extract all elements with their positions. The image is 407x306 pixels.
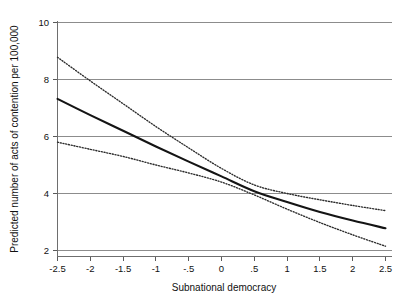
y-tick-label-10: 10: [38, 17, 49, 28]
x-tick-label-1: 1: [284, 263, 289, 274]
y-tick-label-6: 6: [44, 131, 49, 142]
series-upper-ci-line: [58, 57, 386, 210]
x-tick-label-1.5: 1.5: [313, 263, 326, 274]
series-layer: [58, 57, 386, 246]
y-axis: 2 4 6 8 10 Predicted number of acts of c…: [9, 17, 58, 256]
y-axis-title: Predicted number of acts of contention p…: [9, 25, 20, 253]
x-tick-label-2.5: 2.5: [379, 263, 392, 274]
y-tick-label-2: 2: [44, 245, 49, 256]
x-tick-label-2: 2: [350, 263, 355, 274]
x-tick-label-0: 0: [219, 263, 224, 274]
x-tick-label--1.5: -1.5: [115, 263, 131, 274]
x-tick-label--1: -1: [152, 263, 160, 274]
x-axis-title: Subnational democracy: [172, 282, 277, 293]
series-prediction-line: [58, 99, 386, 228]
y-tick-label-8: 8: [44, 74, 49, 85]
series-lower-ci-line: [58, 142, 386, 246]
x-tick-label-0.5: .5: [250, 263, 258, 274]
x-tick-label--2.5: -2.5: [49, 263, 65, 274]
gridlines: [57, 23, 392, 251]
prediction-plot: 2 4 6 8 10 Predicted number of acts of c…: [0, 0, 407, 306]
x-tick-label--2: -2: [86, 263, 94, 274]
x-tick-label--0.5: -.5: [183, 263, 194, 274]
chart-figure: 2 4 6 8 10 Predicted number of acts of c…: [0, 0, 407, 306]
x-axis: -2.5 -2 -1.5 -1 -.5 0 .5 1 1.5 2 2.5 Sub…: [49, 257, 392, 294]
y-tick-label-4: 4: [44, 188, 49, 199]
